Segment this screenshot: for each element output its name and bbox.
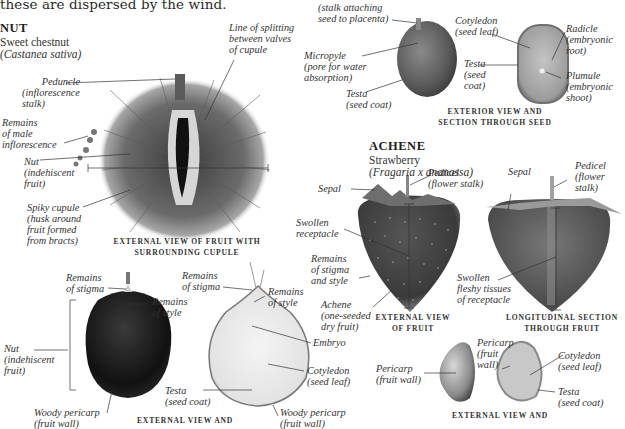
label-sepal-left: Sepal xyxy=(318,183,341,194)
nut-common-name: Sweet chestnut xyxy=(0,36,81,48)
label-cotyledon-seed: Cotyledon (seed leaf) xyxy=(455,15,498,37)
caption-achene-lower: EXTERNAL VIEW AND xyxy=(440,410,560,421)
label-sepal-right: Sepal xyxy=(508,166,531,177)
label-remains-stigma-nut-right: Remains of stigma xyxy=(182,270,220,292)
seed-section-illustration xyxy=(518,25,568,103)
label-micropyle: Micropyle (pore for water absorption) xyxy=(304,50,367,83)
label-testa-section: Testa (seed coat) xyxy=(464,58,486,91)
nut-latin-name: (Castanea sativa) xyxy=(0,48,81,60)
label-embryo: Embryo xyxy=(313,337,346,348)
nut-heading: NUT xyxy=(0,21,81,36)
label-woody-pericarp-right: Woody pericarp (fruit wall) xyxy=(280,407,346,429)
label-remains-stigma-nut-left: Remains of stigma xyxy=(66,272,104,294)
seed-exterior-illustration xyxy=(397,18,457,97)
label-radicle: Radicle (embryonic root) xyxy=(566,23,613,56)
label-cotyledon-nut: Cotyledon (seed leaf) xyxy=(307,365,350,387)
caption-cupule: EXTERNAL VIEW OF FRUIT WITH SURROUNDING … xyxy=(112,236,262,258)
label-swollen-fleshy: Swollen fleshy tissues of receptacle xyxy=(457,272,511,305)
label-nut-lower: Nut (indehiscent fruit) xyxy=(4,343,54,376)
chestnut-section-illustration xyxy=(209,262,309,406)
achene-common-name: Strawberry xyxy=(369,154,473,166)
caption-nut-lower: EXTERNAL VIEW AND xyxy=(130,415,240,426)
label-line-of-splitting: Line of splitting between valves of cupu… xyxy=(229,22,294,55)
label-swollen-receptacle: Swollen receptacle xyxy=(296,217,339,239)
label-pericarp-left: Pericarp (fruit wall) xyxy=(376,363,421,385)
strawberry-exterior-illustration xyxy=(358,175,460,312)
label-testa-nut: Testa (seed coat) xyxy=(165,385,210,407)
label-nut-upper: Nut (indehiscent fruit) xyxy=(24,156,74,189)
achene-exterior-illustration xyxy=(439,342,475,402)
label-pericarp-right: Pericarp (fruit wall) xyxy=(477,337,514,370)
label-remains-style-nut-left: Remains of style xyxy=(152,296,187,318)
label-achene: Achene (one-seeded dry fruit) xyxy=(321,299,371,332)
label-cotyledon-achene: Cotyledon (seed leaf) xyxy=(558,350,601,372)
label-woody-pericarp-left: Woody pericarp (fruit wall) xyxy=(34,407,100,429)
nut-heading-block: NUT Sweet chestnut (Castanea sativa) xyxy=(0,21,81,60)
label-pedicel-right: Pedicel (flower stalk) xyxy=(575,160,606,193)
label-spiky-cupule: Spiky cupule (husk around fruit formed f… xyxy=(27,202,81,246)
label-remains-stigma-style: Remains of stigma and style xyxy=(311,253,349,286)
label-pedicel-left: Pedicel (flower stalk) xyxy=(428,167,483,189)
label-testa-achene: Testa (seed coat) xyxy=(558,386,603,408)
label-plumule: Plumule (embryonic shoot) xyxy=(566,70,613,103)
label-remains-style-nut-right: Remains of style xyxy=(268,286,303,308)
label-remains-male-inflorescence: Remains of male inflorescence xyxy=(2,117,57,150)
caption-strawberry-external: EXTERNAL VIEW OF FRUIT xyxy=(368,312,458,334)
label-testa-exterior: Testa (seed coat) xyxy=(346,88,391,110)
caption-seed: EXTERIOR VIEW AND SECTION THROUGH SEED xyxy=(430,106,560,128)
achene-heading: ACHENE xyxy=(369,139,473,154)
label-funicle: (stalk attaching seed to placenta) xyxy=(318,2,388,24)
label-peduncle: Peduncle (inflorescence stalk) xyxy=(22,76,80,109)
caption-strawberry-section: LONGITUDINAL SECTION THROUGH FRUIT xyxy=(502,312,622,334)
chestnut-cupule-illustration xyxy=(74,74,271,242)
